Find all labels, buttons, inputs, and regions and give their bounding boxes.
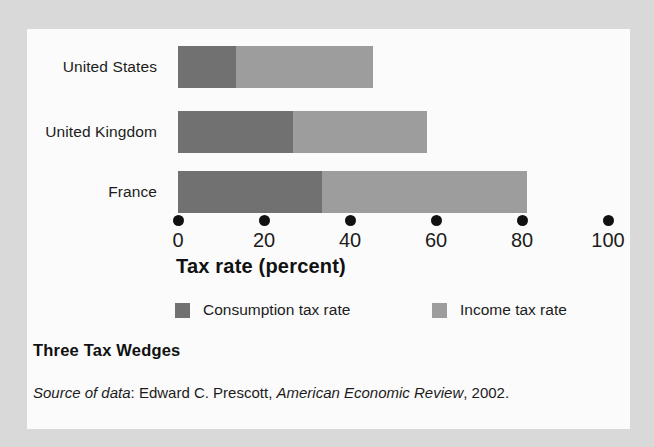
axis-tick-dot [259, 215, 270, 226]
legend-item-income: Income tax rate [432, 298, 567, 322]
bar-segment-income [236, 46, 373, 88]
axis-tick-dot [603, 215, 614, 226]
legend-label-income: Income tax rate [460, 301, 567, 319]
axis-tick-label: 60 [406, 229, 466, 252]
axis-tick-dot [517, 215, 528, 226]
bar-category-label: United Kingdom [27, 111, 157, 153]
bar-category-label: France [27, 171, 157, 213]
plot-area: United States United Kingdom France [27, 29, 630, 239]
axis-tick-dot [173, 215, 184, 226]
source-year: , 2002. [463, 384, 509, 401]
source-publication: American Economic Review [276, 384, 463, 401]
bar-segment-income [322, 171, 527, 213]
bar-segment-consumption [178, 171, 322, 213]
axis-tick-dot [345, 215, 356, 226]
chart-title: Three Tax Wedges [33, 341, 180, 360]
bar-segment-consumption [178, 111, 293, 153]
legend-swatch-income [432, 303, 447, 318]
bar-segment-consumption [178, 46, 236, 88]
axis-tick-label: 20 [234, 229, 294, 252]
source-separator: : [131, 384, 139, 401]
axis-tick-label: 0 [148, 229, 208, 252]
source-author: Edward C. Prescott, [139, 384, 277, 401]
bar-row: France [27, 171, 630, 213]
legend-item-consumption: Consumption tax rate [175, 298, 350, 322]
bar-category-label: United States [27, 46, 157, 88]
axis-tick-label: 100 [578, 229, 638, 252]
legend: Consumption tax rate Income tax rate [27, 298, 630, 322]
figure-panel: United States United Kingdom France [27, 29, 630, 429]
legend-swatch-consumption [175, 303, 190, 318]
axis-tick-label: 80 [492, 229, 552, 252]
bar-row: United Kingdom [27, 111, 630, 153]
axis-tick-dot [431, 215, 442, 226]
legend-label-consumption: Consumption tax rate [203, 301, 350, 319]
source-note: Source of data: Edward C. Prescott, Amer… [33, 384, 509, 401]
bar-row: United States [27, 46, 630, 88]
x-axis-title: Tax rate (percent) [176, 255, 346, 278]
bar-segment-income [293, 111, 427, 153]
source-label: Source of data [33, 384, 131, 401]
figure-frame: United States United Kingdom France [0, 0, 654, 447]
axis-tick-label: 40 [320, 229, 380, 252]
